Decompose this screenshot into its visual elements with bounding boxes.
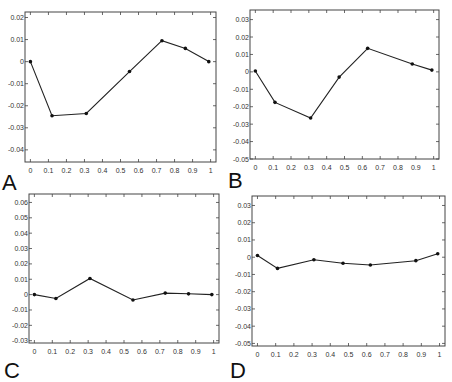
y-tick-label: -0.02 [8,102,24,109]
x-tick-label: 0.8 [398,351,408,358]
axes-frame [25,12,216,162]
x-tick-label: 0.3 [80,167,90,174]
x-tick-label: 0.1 [47,348,57,355]
data-point-marker [184,47,188,51]
data-point-marker [128,70,132,74]
data-point-marker [207,60,211,64]
figure-canvas: 00.10.20.30.40.50.60.70.80.910.020.010-0… [0,0,452,382]
x-tick-label: 0.2 [62,167,72,174]
x-tick-label: 0.3 [304,164,314,171]
y-tick-label: 0.04 [14,230,28,237]
panel-label-b: B [228,168,243,193]
y-tick-label: -0.02 [235,288,251,295]
y-tick-label: -0.04 [8,146,24,153]
data-point-marker [312,258,316,262]
y-tick-label: 0.01 [14,276,28,283]
x-tick-label: 0.2 [289,351,299,358]
series-line [30,41,208,116]
y-tick-label: -0.01 [235,271,251,278]
axes-frame [29,194,219,343]
x-tick-label: 0.2 [286,164,296,171]
axes-frame [250,10,439,159]
y-tick-label: -0.02 [233,103,249,110]
x-tick-label: 0.4 [101,348,111,355]
x-tick-label: 0.6 [137,348,147,355]
x-tick-label: 0 [32,348,36,355]
y-tick-label: 0.05 [14,214,28,221]
data-point-marker [33,293,37,297]
y-tick-label: 0.03 [14,245,28,252]
x-tick-label: 0 [28,167,32,174]
data-point-marker [337,75,341,79]
y-tick-label: -0.01 [12,306,28,313]
panel-label-c: C [4,358,20,382]
data-point-marker [414,259,418,263]
data-point-marker [309,116,313,120]
x-tick-label: 0.4 [322,164,332,171]
data-point-marker [187,292,191,296]
x-tick-label: 1 [212,348,216,355]
x-tick-label: 0.5 [116,167,126,174]
y-tick-label: 0.01 [235,51,249,58]
data-point-marker [163,291,167,295]
data-point-marker [256,254,260,258]
data-point-marker [29,60,33,64]
y-tick-label: -0.05 [235,340,251,347]
data-point-marker [84,112,88,116]
x-tick-label: 0.5 [340,164,350,171]
x-tick-label: 0.8 [173,348,183,355]
x-tick-label: 0.7 [152,167,162,174]
series-line [255,48,432,118]
chart-panel-c: 00.10.20.30.40.50.60.70.80.910.060.050.0… [12,194,219,355]
x-tick-label: 0.8 [393,164,403,171]
y-tick-label: -0.03 [8,124,24,131]
data-point-marker [254,69,258,73]
y-tick-label: -0.01 [233,86,249,93]
y-tick-label: 0.03 [235,16,249,23]
data-point-marker [276,267,280,271]
x-tick-label: 0.6 [134,167,144,174]
x-tick-label: 0.1 [271,351,281,358]
y-tick-label: 0.06 [14,199,28,206]
data-point-marker [160,39,164,43]
data-point-marker [54,297,58,301]
data-point-marker [410,62,414,66]
x-tick-label: 0.3 [83,348,93,355]
data-point-marker [131,298,135,302]
x-tick-label: 0.7 [155,348,165,355]
y-tick-label: 0.02 [10,14,24,21]
panel-label-a: A [2,170,17,195]
x-tick-label: 0.5 [119,348,129,355]
x-tick-label: 0.9 [416,351,426,358]
y-tick-label: 0.02 [237,219,251,226]
y-tick-label: 0.01 [237,236,251,243]
x-tick-label: 0.6 [357,164,367,171]
data-point-marker [210,293,214,297]
x-tick-label: 0 [256,351,260,358]
x-tick-label: 0.9 [188,167,198,174]
chart-panel-d: 00.10.20.30.40.50.60.70.80.910.030.020.0… [235,196,445,358]
x-tick-label: 0.8 [170,167,180,174]
y-tick-label: 0.02 [235,34,249,41]
y-tick-label: 0.02 [14,260,28,267]
x-tick-label: 0.7 [375,164,385,171]
data-point-marker [366,47,370,51]
data-point-marker [88,277,92,281]
x-tick-label: 0.5 [344,351,354,358]
x-tick-label: 0.1 [44,167,54,174]
x-tick-label: 0.4 [325,351,335,358]
y-tick-label: -0.05 [233,156,249,163]
x-tick-label: 0.7 [380,351,390,358]
chart-panel-b: 00.10.20.30.40.50.60.70.80.910.030.020.0… [233,10,439,171]
x-tick-label: 0.1 [268,164,278,171]
axes-frame [252,196,445,346]
y-tick-label: 0 [24,291,28,298]
x-tick-label: 0.4 [98,167,108,174]
data-point-marker [436,252,440,256]
y-tick-label: 0 [247,254,251,261]
y-tick-label: -0.04 [233,138,249,145]
data-point-marker [341,261,345,265]
chart-panel-a: 00.10.20.30.40.50.60.70.80.910.020.010-0… [8,12,216,174]
x-tick-label: 0.3 [307,351,317,358]
y-tick-label: -0.03 [235,305,251,312]
